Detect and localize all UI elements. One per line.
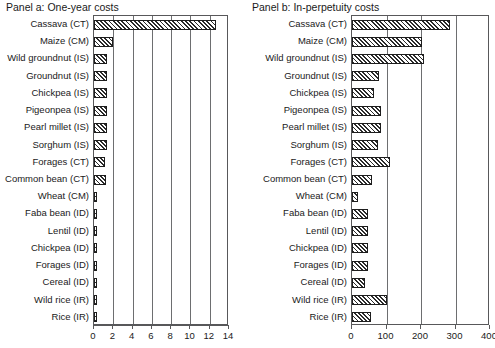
x-tick-label: 14 — [223, 330, 234, 341]
bar-row — [94, 240, 227, 257]
bar-row — [352, 292, 488, 309]
bar[interactable] — [352, 140, 378, 150]
bar-row — [352, 154, 488, 171]
bar-row — [94, 188, 227, 205]
bar-row — [94, 292, 227, 309]
bar-row — [94, 33, 227, 50]
category-label: Chickpea (IS) — [289, 84, 347, 101]
category-label: Groundnut (IS) — [26, 67, 89, 84]
category-label: Cereal (ID) — [43, 273, 89, 290]
bar-row — [352, 205, 488, 222]
bar[interactable] — [352, 71, 379, 81]
panel-b-category-labels: Cassava (CT)Maize (CM)Wild groundnut (IS… — [247, 15, 347, 325]
x-tick-mark — [351, 325, 352, 329]
bar[interactable] — [94, 175, 106, 185]
bar[interactable] — [352, 123, 381, 133]
bar[interactable] — [352, 261, 368, 271]
category-label: Faba bean (ID) — [283, 204, 347, 221]
bar[interactable] — [94, 71, 107, 81]
category-label: Maize (CM) — [40, 32, 89, 49]
category-label: Faba bean (ID) — [25, 204, 89, 221]
x-tick-mark — [209, 325, 210, 329]
bar-row — [352, 50, 488, 67]
bar-row — [352, 274, 488, 291]
bar[interactable] — [94, 243, 97, 253]
x-tick-label: 0 — [348, 330, 353, 341]
category-label: Rice (IR) — [310, 308, 347, 325]
bar[interactable] — [352, 37, 422, 47]
category-label: Wheat (CM) — [38, 187, 89, 204]
x-tick-mark — [455, 325, 456, 329]
bar[interactable] — [352, 88, 374, 98]
x-tick-label: 4 — [129, 330, 134, 341]
bar[interactable] — [94, 37, 113, 47]
category-label: Cereal (ID) — [301, 273, 347, 290]
category-label: Wild rice (IR) — [34, 291, 89, 308]
category-label: Chickpea (ID) — [31, 239, 89, 256]
category-label: Wild groundnut (IS) — [7, 49, 89, 66]
category-label: Forages (CT) — [33, 153, 89, 170]
bar[interactable] — [94, 209, 97, 219]
bar[interactable] — [352, 209, 368, 219]
category-label: Common bean (CT) — [5, 170, 89, 187]
x-tick-label: 200 — [412, 330, 428, 341]
x-tick-label: 10 — [184, 330, 195, 341]
category-label: Forages (ID) — [36, 256, 89, 273]
panel-a: Panel a: One-year costs Cassava (CT)Maiz… — [0, 0, 247, 348]
category-label: Wild groundnut (IS) — [265, 49, 347, 66]
bar[interactable] — [94, 88, 107, 98]
category-label: Pigeonpea (IS) — [284, 101, 347, 118]
bar[interactable] — [352, 20, 450, 30]
bar[interactable] — [94, 295, 97, 305]
bar[interactable] — [94, 123, 107, 133]
x-tick-label: 6 — [148, 330, 153, 341]
bar[interactable] — [352, 192, 358, 202]
x-tick-label: 12 — [203, 330, 214, 341]
x-tick-label: 0 — [90, 330, 95, 341]
figure-container: Panel a: One-year costs Cassava (CT)Maiz… — [0, 0, 495, 348]
category-label: Forages (CT) — [291, 153, 347, 170]
category-label: Wheat (CM) — [296, 187, 347, 204]
bar-row — [352, 119, 488, 136]
category-label: Rice (IR) — [52, 308, 89, 325]
bar[interactable] — [94, 157, 105, 167]
bar[interactable] — [352, 312, 371, 322]
category-label: Wild rice (IR) — [292, 291, 347, 308]
bar[interactable] — [94, 20, 216, 30]
x-tick-label: 8 — [167, 330, 172, 341]
bar[interactable] — [352, 278, 365, 288]
bar[interactable] — [94, 192, 97, 202]
bar-row — [352, 85, 488, 102]
x-tick-mark — [420, 325, 421, 329]
bar-row — [94, 50, 227, 67]
bar-row — [94, 171, 227, 188]
bar[interactable] — [352, 175, 372, 185]
bar[interactable] — [94, 106, 107, 116]
x-tick-label: 400 — [481, 330, 495, 341]
bar[interactable] — [94, 226, 97, 236]
bar-row — [94, 223, 227, 240]
bar-row — [352, 102, 488, 119]
x-tick-mark — [93, 325, 94, 329]
bar-row — [94, 85, 227, 102]
bar[interactable] — [352, 54, 424, 64]
x-tick-mark — [489, 325, 490, 329]
category-label: Pearl millet (IS) — [24, 118, 89, 135]
x-tick-mark — [386, 325, 387, 329]
category-label: Chickpea (IS) — [31, 84, 89, 101]
bar[interactable] — [94, 261, 97, 271]
bar-row — [352, 188, 488, 205]
x-tick-label: 100 — [378, 330, 394, 341]
bar[interactable] — [94, 278, 97, 288]
bar[interactable] — [352, 157, 390, 167]
bar[interactable] — [352, 243, 368, 253]
bar[interactable] — [94, 54, 107, 64]
bar[interactable] — [352, 295, 387, 305]
category-label: Lentil (ID) — [306, 222, 347, 239]
x-tick-mark — [189, 325, 190, 329]
bar[interactable] — [352, 106, 381, 116]
bar[interactable] — [352, 226, 368, 236]
bar-row — [94, 257, 227, 274]
bar[interactable] — [94, 312, 97, 322]
bar[interactable] — [94, 140, 107, 150]
